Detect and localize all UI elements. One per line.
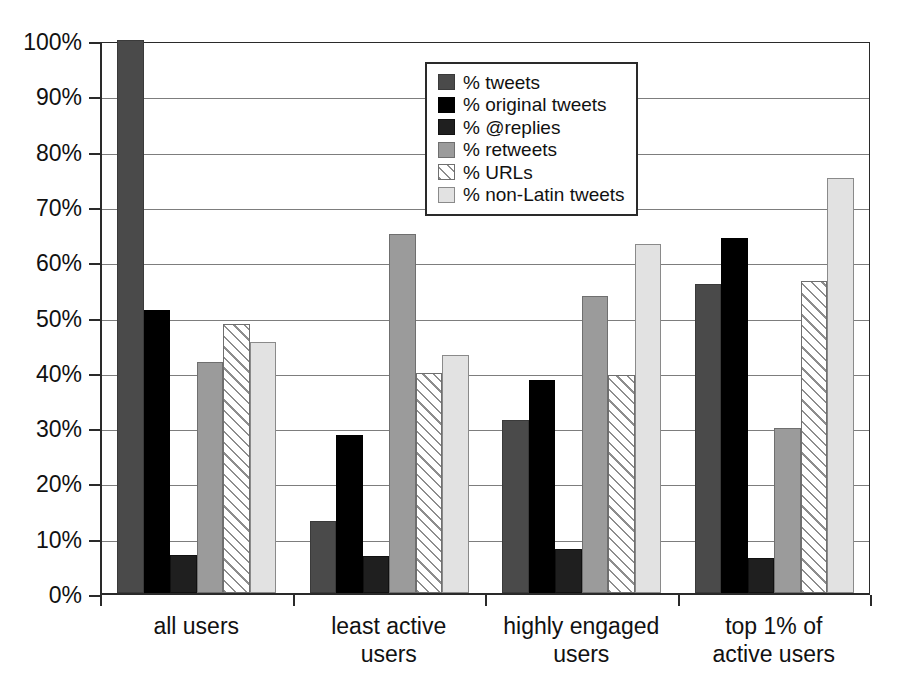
bar [442, 355, 469, 593]
y-tick-label: 100% [0, 31, 82, 54]
y-tick-mark [89, 263, 100, 265]
bar [721, 238, 748, 593]
legend-item: % original tweets [438, 94, 626, 117]
legend-item: % retweets [438, 139, 626, 162]
gridline [102, 320, 869, 321]
bar [223, 324, 250, 593]
x-axis-category-label: all users [100, 612, 293, 640]
legend-label: % retweets [463, 140, 557, 159]
legend-label: % URLs [463, 163, 533, 182]
y-tick-mark [89, 484, 100, 486]
legend-item: % @replies [438, 116, 626, 139]
bar [336, 435, 363, 593]
bar [363, 556, 390, 593]
bar [695, 284, 722, 593]
x-axis-category-label: highly engagedusers [485, 612, 678, 668]
y-tick-label: 50% [0, 308, 82, 331]
x-tick-mark [678, 595, 680, 606]
legend-label: % non-Latin tweets [463, 185, 625, 204]
y-tick-label: 90% [0, 86, 82, 109]
legend-item: % URLs [438, 161, 626, 184]
bar [389, 234, 416, 593]
x-tick-mark [870, 595, 872, 606]
y-tick-mark [89, 42, 100, 44]
x-axis-label-line: users [485, 640, 678, 668]
y-tick-label: 80% [0, 142, 82, 165]
bar [608, 375, 635, 593]
x-axis-category-label: top 1% ofactive users [678, 612, 871, 668]
legend-swatch-icon [438, 187, 455, 203]
legend-swatch-icon [438, 119, 455, 135]
bar [635, 244, 662, 593]
y-tick-mark [89, 595, 100, 597]
gridline [102, 264, 869, 265]
y-tick-label: 10% [0, 529, 82, 552]
x-axis-label-line: highly engaged [485, 612, 678, 640]
y-tick-mark [89, 208, 100, 210]
legend-swatch-icon [438, 97, 455, 113]
legend-item: % tweets [438, 71, 626, 94]
y-tick-mark [89, 319, 100, 321]
y-tick-label: 70% [0, 197, 82, 220]
x-axis-label-line: least active [293, 612, 486, 640]
bar [582, 296, 609, 593]
bar [774, 428, 801, 593]
legend-item: % non-Latin tweets [438, 184, 626, 207]
x-axis-label-line: users [293, 640, 486, 668]
y-tick-mark [89, 540, 100, 542]
bar-chart: 0%10%20%30%40%50%60%70%80%90%100% all us… [0, 0, 902, 673]
y-tick-mark [89, 153, 100, 155]
bar [250, 342, 277, 593]
y-tick-label: 20% [0, 473, 82, 496]
bar [748, 558, 775, 593]
legend-label: % @replies [463, 118, 560, 137]
bar [117, 40, 144, 593]
y-tick-mark [89, 429, 100, 431]
x-axis-label-line: active users [678, 640, 871, 668]
bar [555, 549, 582, 593]
bar [827, 178, 854, 593]
y-tick-label: 60% [0, 252, 82, 275]
x-axis-label-line: top 1% of [678, 612, 871, 640]
bar [197, 362, 224, 593]
bar [144, 310, 171, 593]
y-tick-label: 0% [0, 584, 82, 607]
legend-swatch-icon [438, 142, 455, 158]
bar [170, 555, 197, 593]
bar [310, 521, 337, 593]
y-tick-label: 40% [0, 363, 82, 386]
legend-label: % tweets [463, 73, 540, 92]
bar [416, 373, 443, 593]
y-tick-mark [89, 97, 100, 99]
legend-swatch-icon [438, 164, 455, 180]
chart-legend: % tweets% original tweets% @replies% ret… [425, 62, 638, 216]
x-axis-category-label: least activeusers [293, 612, 486, 668]
legend-label: % original tweets [463, 95, 607, 114]
x-tick-mark [100, 595, 102, 606]
x-axis-label-line: all users [100, 612, 293, 640]
x-tick-mark [485, 595, 487, 606]
legend-swatch-icon [438, 74, 455, 90]
x-tick-mark [293, 595, 295, 606]
y-tick-mark [89, 374, 100, 376]
bar [529, 380, 556, 593]
bar [801, 281, 828, 593]
bar [502, 420, 529, 593]
y-tick-label: 30% [0, 418, 82, 441]
